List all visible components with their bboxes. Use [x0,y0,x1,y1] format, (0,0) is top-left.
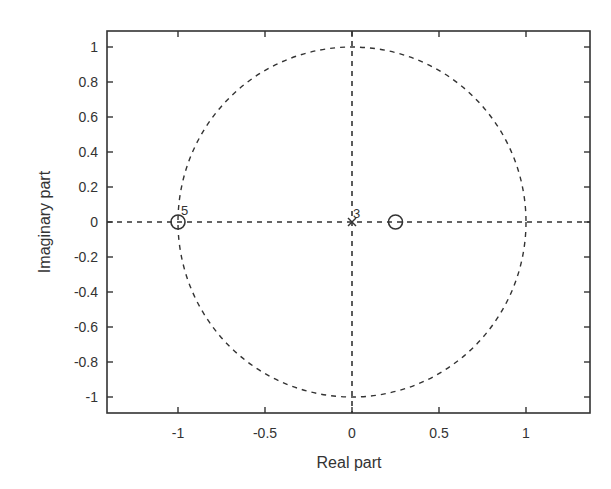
y-tick-label: 0.8 [79,74,99,90]
reference-axes [107,31,590,413]
x-tick-label: 0.5 [429,425,449,441]
x-axis-label: Real part [317,454,382,471]
x-tick-label: 1 [522,425,530,441]
pole-multiplicity-label: 3 [353,206,360,221]
y-axis-label: Imaginary part [36,170,53,273]
pole-zero-markers: 53 [171,203,403,229]
pole-zero-plot: -1-0.500.51 10.80.60.40.20-0.2-0.4-0.6-0… [0,0,611,489]
x-tick-label: 0 [348,425,356,441]
x-tick-label: -1 [172,425,185,441]
y-tick-label: 0 [90,214,98,230]
x-tick-label: -0.5 [253,425,277,441]
y-tick-label: 0.2 [79,179,99,195]
y-tick-label: -0.2 [74,249,98,265]
y-tick-label: -1 [86,389,99,405]
y-tick-label: 1 [90,39,98,55]
y-tick-label: 0.6 [79,109,99,125]
y-tick-label: -0.8 [74,354,98,370]
zero-multiplicity-label: 5 [181,203,188,218]
y-tick-label: -0.6 [74,319,98,335]
x-axis-ticks: -1-0.500.51 [172,31,530,441]
y-tick-label: -0.4 [74,284,98,300]
y-tick-label: 0.4 [79,144,99,160]
